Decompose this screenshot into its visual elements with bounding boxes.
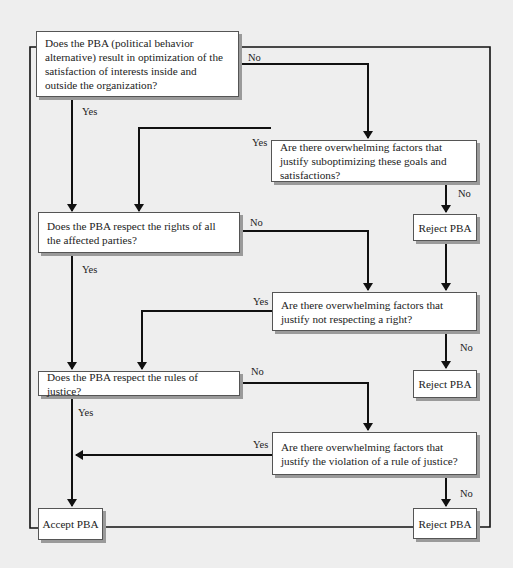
reject-pba-3: Reject PBA: [413, 508, 477, 539]
decision-q2-override: Are there overwhelming factors that just…: [272, 292, 477, 331]
reject-pba-3-text: Reject PBA: [418, 517, 471, 531]
q1-override-text: Are there overwhelming factors that just…: [280, 140, 468, 182]
label-q2o-yes: Yes: [253, 296, 268, 307]
reject-pba-1: Reject PBA: [413, 214, 477, 241]
decision-q2-rights: Does the PBA respect the rights of all t…: [38, 212, 240, 253]
label-q1-no: No: [248, 52, 261, 63]
label-q2-yes: Yes: [82, 264, 97, 275]
label-q2-no: No: [250, 217, 263, 228]
decision-q1-optimization: Does the PBA (political behavior alterna…: [36, 31, 239, 97]
decision-q3-override: Are there overwhelming factors that just…: [272, 432, 477, 475]
reject-pba-2-text: Reject PBA: [418, 377, 471, 391]
label-q2o-no: No: [460, 342, 473, 353]
label-q1o-no: No: [458, 188, 471, 199]
q2-text: Does the PBA respect the rights of all t…: [47, 219, 231, 247]
edge-q2o-yes: [142, 311, 272, 369]
label-q3o-yes: Yes: [253, 439, 268, 450]
label-q3o-no: No: [460, 488, 473, 499]
outer-loop-line: [30, 47, 38, 528]
reject-pba-1-text: Reject PBA: [418, 221, 471, 235]
q3-override-text: Are there overwhelming factors that just…: [281, 440, 468, 468]
decision-q3-justice: Does the PBA respect the rules of justic…: [38, 371, 240, 396]
accept-pba-text: Accept PBA: [42, 517, 98, 531]
edge-q1-no: [238, 64, 368, 138]
decision-q1-override: Are there overwhelming factors that just…: [271, 140, 477, 182]
q2-override-text: Are there overwhelming factors that just…: [281, 298, 468, 326]
label-q3-no: No: [251, 366, 264, 377]
label-q1o-yes: Yes: [252, 137, 267, 148]
q3-text: Does the PBA respect the rules of justic…: [47, 370, 231, 398]
label-q3-yes: Yes: [78, 407, 93, 418]
accept-pba: Accept PBA: [38, 508, 103, 540]
edge-q3-no: [240, 383, 368, 430]
label-q1-yes: Yes: [82, 106, 97, 117]
edge-q2-no: [240, 231, 368, 290]
reject-pba-2: Reject PBA: [413, 370, 477, 398]
